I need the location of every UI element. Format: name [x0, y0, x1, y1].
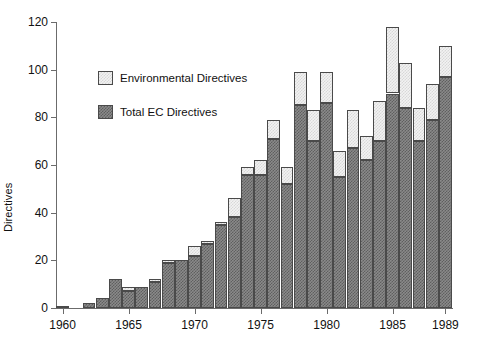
bar-segment-total-ec-directives — [373, 141, 386, 308]
x-tick-label: 1980 — [297, 319, 357, 331]
bar-segment-total-ec-directives — [399, 108, 412, 308]
bar-segment-total-ec-directives — [122, 291, 135, 308]
bar-segment-total-ec-directives — [426, 120, 439, 308]
x-tick-mark — [261, 309, 262, 314]
bar-segment-total-ec-directives — [254, 175, 267, 308]
bar-segment-environmental-directives — [162, 260, 175, 262]
chart-container: Directives 020406080100120 1960196519701… — [0, 0, 478, 350]
legend-swatch-environmental-directives — [98, 71, 113, 85]
y-tick-label: 0 — [6, 302, 48, 314]
y-tick-mark — [51, 165, 56, 166]
y-tick-label: 120 — [6, 16, 48, 28]
bar-segment-total-ec-directives — [333, 177, 346, 308]
bar-segment-environmental-directives — [426, 84, 439, 120]
bar-segment-environmental-directives — [347, 110, 360, 148]
bar-segment-total-ec-directives — [413, 141, 426, 308]
x-tick-label: 1989 — [415, 319, 475, 331]
y-tick-mark — [51, 117, 56, 118]
x-tick-mark — [129, 309, 130, 314]
bar-segment-total-ec-directives — [307, 141, 320, 308]
y-tick-mark — [51, 213, 56, 214]
x-tick-mark — [445, 309, 446, 314]
y-tick-mark — [51, 260, 56, 261]
bar-segment-total-ec-directives — [294, 105, 307, 308]
bar-segment-total-ec-directives — [149, 282, 162, 308]
x-tick-mark — [393, 309, 394, 314]
bar-segment-environmental-directives — [399, 63, 412, 108]
bar-segment-total-ec-directives — [83, 303, 96, 308]
bar-segment-environmental-directives — [373, 101, 386, 142]
bar-segment-total-ec-directives — [386, 94, 399, 309]
bar-segment-environmental-directives — [254, 160, 267, 174]
y-tick-mark — [51, 70, 56, 71]
bar-segment-total-ec-directives — [241, 175, 254, 308]
bar-segment-environmental-directives — [360, 136, 373, 160]
x-tick-label: 1975 — [231, 319, 291, 331]
x-tick-mark — [327, 309, 328, 314]
bar-segment-environmental-directives — [241, 167, 254, 174]
bar-segment-total-ec-directives — [201, 244, 214, 308]
bar-segment-total-ec-directives — [215, 225, 228, 308]
bar-segment-total-ec-directives — [267, 139, 280, 308]
bar-segment-total-ec-directives — [320, 103, 333, 308]
y-tick-mark — [51, 22, 56, 23]
y-tick-label: 80 — [6, 111, 48, 123]
bar-segment-environmental-directives — [333, 151, 346, 177]
bar-segment-total-ec-directives — [439, 77, 452, 308]
bar-segment-environmental-directives — [281, 167, 294, 184]
bar-segment-environmental-directives — [188, 246, 201, 256]
y-tick-mark — [51, 308, 56, 309]
bar-segment-total-ec-directives — [109, 279, 122, 308]
y-tick-label: 100 — [6, 64, 48, 76]
bar-segment-total-ec-directives — [347, 148, 360, 308]
y-axis-line — [56, 22, 57, 309]
bar-segment-total-ec-directives — [56, 306, 69, 308]
x-tick-label: 1970 — [165, 319, 225, 331]
bar-segment-total-ec-directives — [188, 256, 201, 308]
legend-label-total-ec-directives: Total EC Directives — [120, 107, 217, 119]
x-tick-mark — [63, 309, 64, 314]
bar-segment-environmental-directives — [320, 72, 333, 103]
bar-segment-total-ec-directives — [360, 160, 373, 308]
bar-segment-total-ec-directives — [281, 184, 294, 308]
x-tick-label: 1960 — [33, 319, 93, 331]
bar-segment-environmental-directives — [294, 72, 307, 105]
x-tick-mark — [195, 309, 196, 314]
bar-segment-total-ec-directives — [228, 217, 241, 308]
legend-swatch-total-ec-directives — [98, 105, 113, 119]
bar-segment-total-ec-directives — [162, 263, 175, 308]
bar-segment-environmental-directives — [149, 279, 162, 281]
bar-segment-environmental-directives — [386, 27, 399, 94]
bar-segment-environmental-directives — [267, 120, 280, 139]
bar-segment-environmental-directives — [122, 287, 135, 292]
bar-segment-total-ec-directives — [175, 260, 188, 308]
legend-label-environmental-directives: Environmental Directives — [120, 73, 247, 85]
bar-segment-environmental-directives — [439, 46, 452, 77]
x-tick-label: 1965 — [99, 319, 159, 331]
bar-segment-environmental-directives — [228, 198, 241, 217]
bar-segment-total-ec-directives — [96, 298, 109, 308]
bar-segment-environmental-directives — [307, 110, 320, 141]
y-tick-label: 20 — [6, 254, 48, 266]
bar-segment-environmental-directives — [413, 108, 426, 141]
y-tick-label: 60 — [6, 159, 48, 171]
x-tick-label: 1985 — [363, 319, 423, 331]
y-tick-label: 40 — [6, 207, 48, 219]
bar-segment-total-ec-directives — [135, 287, 148, 308]
bar-segment-environmental-directives — [215, 222, 228, 224]
bar-segment-environmental-directives — [201, 241, 214, 243]
